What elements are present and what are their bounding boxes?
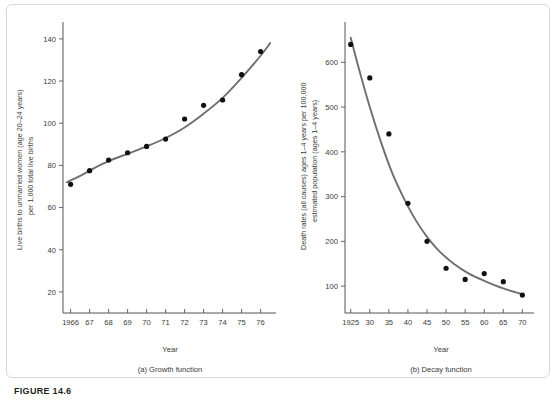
- chart-panel-growth: 20406080100120140 1966676869707172737475…: [0, 0, 286, 374]
- y-tick-label: 80: [48, 161, 56, 170]
- x-tick-label: 50: [442, 318, 450, 327]
- data-point: [386, 131, 391, 136]
- y-tick-label: 140: [43, 35, 56, 44]
- y-tick-group-b: 100200300400500600: [325, 58, 345, 291]
- x-tick-label: 60: [480, 318, 488, 327]
- y-tick-label: 60: [48, 203, 56, 212]
- x-tick-label: 68: [104, 318, 112, 327]
- y-axis-label-a-line1: Live births to unmarried women (age 20–2…: [15, 89, 24, 250]
- y-tick-label: 400: [325, 148, 338, 157]
- data-point: [87, 168, 92, 173]
- x-tick-group-b: 1925303540455055606570: [342, 309, 526, 327]
- x-tick-label: 74: [218, 318, 226, 327]
- x-tick-label: 72: [180, 318, 188, 327]
- data-point: [125, 150, 130, 155]
- data-point: [163, 136, 168, 141]
- data-point: [443, 266, 448, 271]
- data-point: [239, 72, 244, 77]
- x-tick-label: 1925: [342, 318, 359, 327]
- y-tick-label: 100: [325, 282, 338, 291]
- figure-root: 20406080100120140 1966676869707172737475…: [0, 0, 558, 402]
- y-tick-label: 20: [48, 288, 56, 297]
- y-tick-label: 100: [43, 119, 56, 128]
- data-point: [520, 292, 525, 297]
- y-tick-label: 200: [325, 237, 338, 246]
- data-point: [220, 97, 225, 102]
- y-tick-label: 500: [325, 103, 338, 112]
- data-point: [482, 271, 487, 276]
- data-point: [258, 49, 263, 54]
- data-point: [463, 277, 468, 282]
- x-axis-label-b: Year: [433, 345, 449, 354]
- x-tick-label: 45: [423, 318, 431, 327]
- x-tick-label: 75: [237, 318, 245, 327]
- chart-panel-decay: 100200300400500600 192530354045505560657…: [286, 0, 544, 374]
- x-tick-label: 30: [366, 318, 374, 327]
- x-tick-label: 55: [461, 318, 469, 327]
- data-point: [201, 103, 206, 108]
- data-point: [144, 144, 149, 149]
- data-point: [367, 75, 372, 80]
- x-axis-label-a: Year: [162, 345, 178, 354]
- data-point: [106, 158, 111, 163]
- fit-curve-growth: [67, 43, 270, 182]
- data-point: [182, 116, 187, 121]
- x-tick-label: 73: [199, 318, 207, 327]
- growth-chart-svg: 20406080100120140 1966676869707172737475…: [0, 0, 286, 374]
- y-tick-label: 300: [325, 192, 338, 201]
- decay-chart-svg: 100200300400500600 192530354045505560657…: [286, 0, 544, 374]
- x-tick-label: 67: [85, 318, 93, 327]
- x-tick-label: 70: [518, 318, 526, 327]
- data-point: [348, 42, 353, 47]
- x-tick-label: 76: [256, 318, 264, 327]
- x-tick-label: 69: [123, 318, 131, 327]
- x-tick-label: 35: [385, 318, 393, 327]
- panel-caption-b: (b) Decay function: [410, 365, 472, 374]
- y-axis-label-b-line1: Death rates (all causes) ages 1–4 years …: [299, 83, 308, 250]
- panel-caption-a: (a) Growth function: [138, 365, 203, 374]
- x-tick-label: 70: [142, 318, 150, 327]
- y-axis-label-a-line2: per 1,000 total live births: [26, 136, 35, 215]
- data-point: [501, 279, 506, 284]
- y-tick-label: 600: [325, 58, 338, 67]
- y-tick-label: 120: [43, 77, 56, 86]
- x-tick-group-a: 196667686970717273747576: [62, 309, 265, 327]
- x-tick-label: 1966: [62, 318, 79, 327]
- y-tick-label: 40: [48, 246, 56, 255]
- x-tick-label: 40: [404, 318, 412, 327]
- y-tick-group-a: 20406080100120140: [43, 35, 63, 297]
- data-point: [68, 182, 73, 187]
- fit-curve-decay: [351, 38, 523, 295]
- x-tick-label: 71: [161, 318, 169, 327]
- x-tick-label: 65: [499, 318, 507, 327]
- data-point: [405, 201, 410, 206]
- data-point: [424, 239, 429, 244]
- y-axis-label-b-line2: estimated population (ages 1–4 years): [310, 100, 319, 222]
- data-point-group-decay: [348, 42, 525, 298]
- figure-number-label: FIGURE 14.6: [14, 386, 71, 396]
